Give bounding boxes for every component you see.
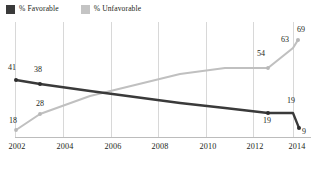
data-label-unfavorable-69: 69 [297, 26, 305, 34]
x-tick-2010: 2010 [199, 143, 216, 151]
x-tick-2008: 2008 [151, 143, 168, 151]
series-line-unfavorable [16, 40, 298, 130]
data-label-favorable-41: 41 [8, 64, 16, 72]
data-label-favorable-19-2014: 19 [287, 97, 295, 105]
x-tick-2004: 2004 [56, 143, 73, 151]
data-point-unfavorable-end [296, 38, 300, 42]
data-label-favorable-19-2013: 19 [263, 117, 271, 125]
x-axis-labels: 2002 2004 2006 2008 2010 2012 2014 [0, 143, 317, 157]
data-label-unfavorable-28: 28 [36, 100, 44, 108]
data-label-favorable-9: 9 [302, 128, 306, 136]
data-point-favorable-2013 [266, 111, 270, 115]
data-point-unfavorable-2003 [38, 112, 42, 116]
data-label-unfavorable-63: 63 [281, 36, 289, 44]
x-tick-2006: 2006 [104, 143, 121, 151]
data-label-favorable-38: 38 [34, 66, 42, 74]
favorability-line-chart: % Favorable % Unfavorable [0, 0, 317, 169]
x-tick-2002: 2002 [8, 143, 25, 151]
data-label-unfavorable-54: 54 [257, 50, 265, 58]
x-tick-2012: 2012 [246, 143, 263, 151]
data-point-favorable-2003 [38, 82, 42, 86]
series-line-favorable [16, 80, 299, 128]
data-point-favorable-2002 [14, 78, 18, 82]
data-point-unfavorable-2013 [266, 66, 270, 70]
data-point-unfavorable-2002 [14, 128, 18, 132]
data-point-favorable-end [297, 126, 301, 130]
data-label-unfavorable-18: 18 [9, 117, 17, 125]
x-tick-2014: 2014 [288, 143, 305, 151]
